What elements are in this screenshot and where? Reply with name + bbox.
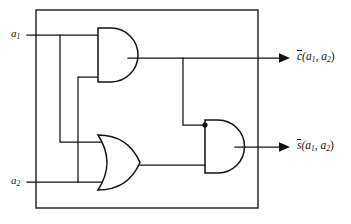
arrow-s-bar	[279, 142, 290, 151]
input-label-a1-subscript: 1	[17, 32, 21, 41]
output-label-c-bar-open: (a	[302, 50, 312, 62]
output-label-s-bar-comma: , a	[315, 139, 327, 151]
output-label-c-bar: c(a1, a2)	[297, 50, 335, 64]
circuit-boundary-rectangle	[36, 10, 258, 208]
output-label-c-bar-comma: , a	[315, 50, 327, 62]
output-label-s-bar: s(a1, a2)	[297, 139, 334, 153]
output-label-s-bar-open: (a	[301, 139, 311, 151]
or-gate-1	[98, 135, 140, 190]
and-gate-1	[98, 28, 138, 82]
output-label-c-bar-close: )	[331, 50, 335, 62]
circuit-diagram-canvas: a1 a2 c(a1, a2) s(a1, a2)	[0, 0, 351, 224]
circuit-svg	[0, 0, 351, 224]
input-label-a2-subscript: 2	[17, 179, 21, 188]
junction-dot-and2-input	[202, 122, 207, 127]
wire-c-bar-tap-to-and2	[183, 58, 205, 125]
output-label-s-bar-close: )	[330, 139, 334, 151]
input-label-a2: a2	[11, 175, 20, 188]
arrow-c-bar	[279, 53, 290, 62]
input-label-a1: a1	[11, 28, 20, 41]
wire-a2-branch-to-and1	[78, 77, 98, 182]
